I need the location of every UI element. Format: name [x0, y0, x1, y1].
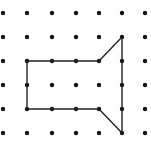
grid-dot: [143, 59, 147, 63]
grid-dot: [97, 11, 101, 15]
grid-dot: [1, 35, 5, 39]
grid-dot: [74, 83, 78, 87]
grid-dot: [50, 11, 54, 15]
grid-dot: [50, 83, 54, 87]
grid-dots: [1, 11, 147, 135]
grid-dot: [143, 83, 147, 87]
grid-dot: [74, 11, 78, 15]
grid-dot: [1, 131, 5, 135]
grid-dot: [120, 11, 124, 15]
grid-dot: [1, 107, 5, 111]
grid-dot: [1, 59, 5, 63]
grid-dot: [25, 35, 29, 39]
grid-dot: [97, 35, 101, 39]
grid-dot: [50, 131, 54, 135]
grid-dot: [143, 35, 147, 39]
grid-dot: [74, 35, 78, 39]
grid-dot: [1, 83, 5, 87]
grid-dot: [143, 107, 147, 111]
grid-dot: [25, 131, 29, 135]
grid-dot: [74, 131, 78, 135]
grid-dot: [143, 11, 147, 15]
grid-dot: [50, 35, 54, 39]
grid-dot: [97, 83, 101, 87]
grid-dot: [1, 11, 5, 15]
grid-dot: [143, 131, 147, 135]
dot-grid-diagram: [0, 0, 151, 154]
grid-dot: [97, 131, 101, 135]
grid-dot: [25, 11, 29, 15]
